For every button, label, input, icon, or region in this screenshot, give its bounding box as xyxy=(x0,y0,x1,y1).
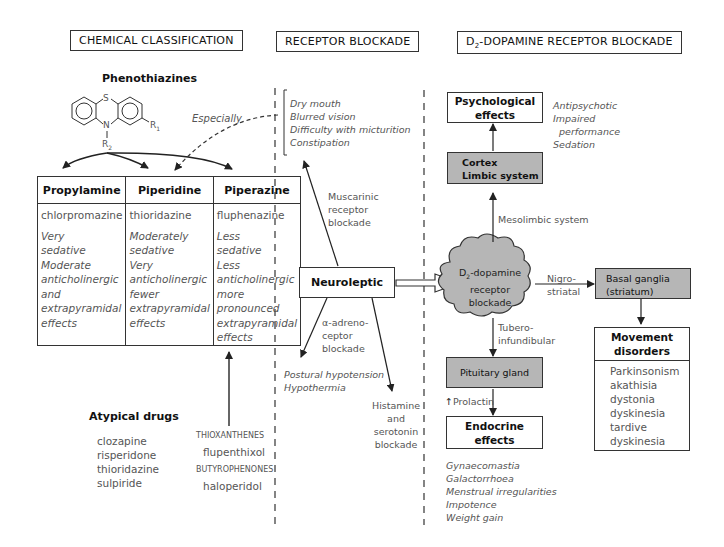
cloud-line: receptor xyxy=(456,283,524,296)
drug-fluphenazine: fluphenazine xyxy=(217,208,297,223)
effect-line: sedative xyxy=(129,243,209,258)
effect-item: Weight gain xyxy=(446,511,557,524)
label-line: and xyxy=(372,412,420,425)
cloud-rest: -dopamine xyxy=(470,267,521,278)
effects-propylamine: Very sedative Moderate anticholinergic a… xyxy=(41,229,122,331)
col-piperazine: fluphenazine Less sedative Less antichol… xyxy=(213,204,300,346)
label-line: blockade xyxy=(372,438,420,451)
effects-bracket xyxy=(284,90,287,155)
movement-disorders-box: Movement disorders Parkinsonism akathisi… xyxy=(594,327,690,451)
box-line: Endocrine xyxy=(447,419,542,433)
movement-item: akathisia xyxy=(610,378,689,392)
mesolimbic-label: Mesolimbic system xyxy=(498,213,589,226)
movement-item: Parkinsonism xyxy=(610,364,689,378)
effect-line: effects xyxy=(41,316,122,331)
effect-item: Galactorrhoea xyxy=(446,472,557,485)
r2-label: R2 xyxy=(102,139,112,151)
arrow-to-piperidine xyxy=(107,153,148,168)
endocrine-effects-list: Gynaecomastia Galactorrhoea Menstrual ir… xyxy=(446,459,557,524)
cortex-limbic-box: Cortex Limbic system xyxy=(447,152,543,184)
label-line: receptor xyxy=(328,203,379,216)
col-piperidine: thioridazine Moderately sedative Very an… xyxy=(126,204,213,346)
alpha-label: α-adreno- ceptor blockade xyxy=(322,316,369,355)
nigrostriatal-label: Nigro- striatal xyxy=(547,272,580,298)
haloperidol: haloperidol xyxy=(203,480,262,492)
effect-line: sedative xyxy=(217,243,297,258)
effect-item: Impaired xyxy=(553,112,620,125)
movement-item: tardive xyxy=(610,420,689,434)
effect-line: and xyxy=(41,287,122,302)
neuroleptic-box: Neuroleptic xyxy=(299,267,395,298)
arrow-to-piperazine xyxy=(107,153,232,169)
effect-line: sedative xyxy=(41,243,122,258)
atom-n: N xyxy=(103,120,110,130)
effect-item: Blurred vision xyxy=(290,110,410,123)
header-receptor-blockade: RECEPTOR BLOCKADE xyxy=(276,31,419,52)
effect-line: fewer xyxy=(129,287,209,302)
atypical-drug: thioridazine xyxy=(97,462,159,476)
effect-line: Less xyxy=(217,258,297,273)
r1-label: R1 xyxy=(150,120,160,132)
especially-label: Especially xyxy=(192,113,242,124)
box-line: Limbic system xyxy=(462,169,542,182)
basal-ganglia-box: Basal ganglia (striatum) xyxy=(595,268,691,299)
atypical-list: clozapine risperidone thioridazine sulpi… xyxy=(97,434,159,490)
drug-thioridazine: thioridazine xyxy=(129,208,209,223)
box-line: disorders xyxy=(595,344,689,358)
label-line: striatal xyxy=(547,285,580,298)
label-line: serotonin xyxy=(372,425,420,438)
d2-rest: -DOPAMINE RECEPTOR BLOCKADE xyxy=(479,35,672,48)
header-chemical-classification: CHEMICAL CLASSIFICATION xyxy=(70,30,243,51)
box-line: Basal ganglia xyxy=(606,272,690,285)
histamine-label: Histamine and serotonin blockade xyxy=(372,399,420,451)
label-line: α-adreno- xyxy=(322,316,369,329)
effect-line: Moderate xyxy=(41,258,122,273)
effect-item: Constipation xyxy=(290,136,410,149)
box-line: effects xyxy=(448,108,542,122)
effect-line: Very xyxy=(129,258,209,273)
muscarinic-label: Muscarinic receptor blockade xyxy=(328,190,379,229)
effect-item: Sedation xyxy=(553,138,620,151)
endocrine-effects-box: Endocrine effects xyxy=(446,416,543,449)
drug-chlorpromazine: chlorpromazine xyxy=(41,208,122,223)
movement-title: Movement disorders xyxy=(595,328,689,361)
effect-item: Difficulty with micturition xyxy=(290,123,410,136)
cloud-text: D2-dopamine receptor blockade xyxy=(456,266,524,309)
label-line: Nigro- xyxy=(547,272,580,285)
label-line: Tubero- xyxy=(498,321,555,334)
effect-line: more xyxy=(217,287,297,302)
r2-sub: 2 xyxy=(108,144,112,151)
effect-line: Moderately xyxy=(129,229,209,244)
atypical-drug: risperidone xyxy=(97,448,159,462)
effect-item: Menstrual irregularities xyxy=(446,485,557,498)
effect-item: Postural hypotension xyxy=(284,368,384,381)
cloud-line-1: D2-dopamine xyxy=(456,266,524,283)
box-line: (striatum) xyxy=(606,285,690,298)
box-line: Psychological xyxy=(448,94,542,108)
flupenthixol: flupenthixol xyxy=(203,446,265,458)
effect-item: Gynaecomastia xyxy=(446,459,557,472)
col-header-piperidine: Piperidine xyxy=(126,177,213,204)
effect-line: extrapyramidal xyxy=(217,316,297,331)
alpha-effects-list: Postural hypotension Hypothermia xyxy=(284,368,384,394)
label-line: blockade xyxy=(322,342,369,355)
box-line: Cortex xyxy=(462,156,542,169)
movement-item: dyskinesia xyxy=(610,406,689,420)
effect-line: pronounced xyxy=(217,301,297,316)
cloud-line: blockade xyxy=(456,296,524,309)
effect-line: extrapyramidal xyxy=(41,301,122,316)
effect-item: Impotence xyxy=(446,498,557,511)
effect-line: Less xyxy=(217,229,297,244)
label-line: ceptor xyxy=(322,329,369,342)
atypical-drug: clozapine xyxy=(97,434,159,448)
effect-line: anticholinergic xyxy=(41,272,122,287)
movement-item: dystonia xyxy=(610,392,689,406)
effects-piperazine: Less sedative Less anticholinergic more … xyxy=(217,229,297,345)
label-line: infundibular xyxy=(498,334,555,347)
phenothiazine-structure xyxy=(72,97,149,138)
col-header-propylamine: Propylamine xyxy=(38,177,126,204)
effect-item: Antipsychotic xyxy=(553,99,620,112)
r1-sub: 1 xyxy=(156,125,160,132)
box-line: Movement xyxy=(595,330,689,344)
d2-prefix: D xyxy=(466,35,475,48)
